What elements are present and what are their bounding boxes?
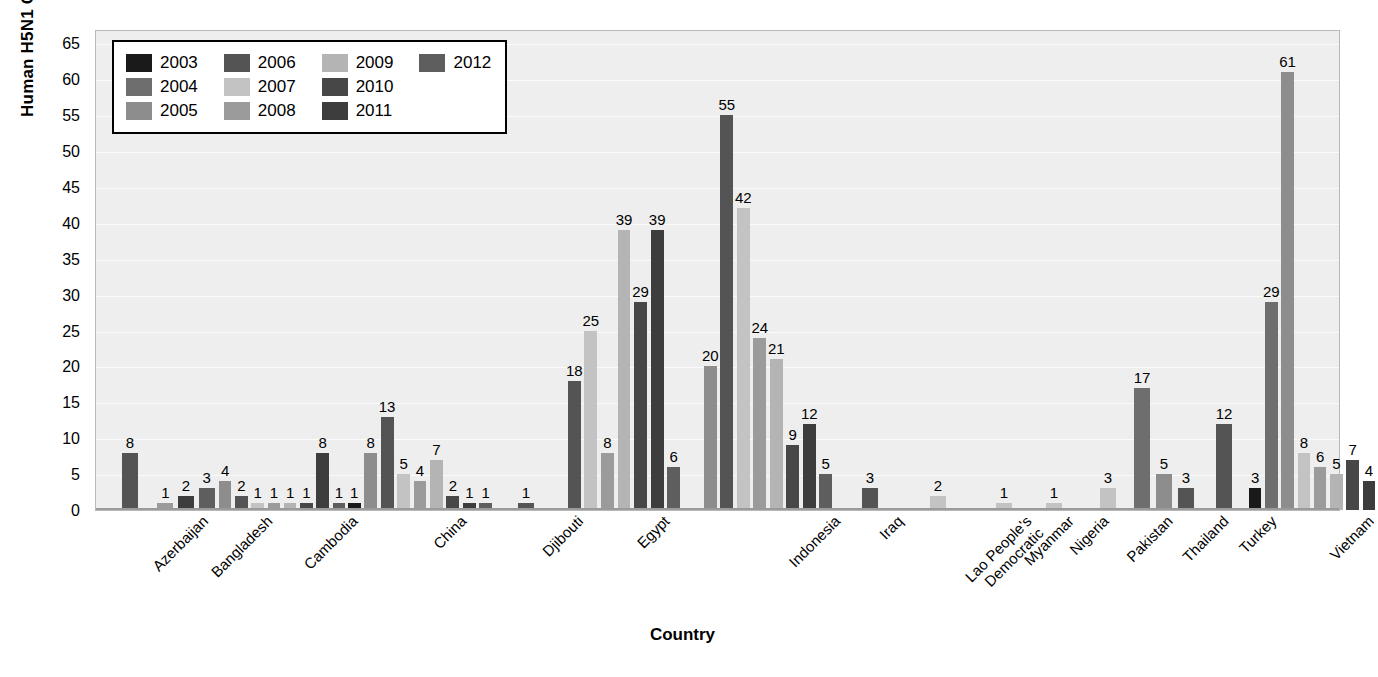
bar-value-label: 1 — [302, 485, 310, 500]
legend-swatch-2004 — [126, 78, 152, 96]
bar-value-label: 29 — [1263, 284, 1280, 299]
bar-value-label: 1 — [1050, 485, 1058, 500]
bar[interactable] — [1216, 424, 1232, 510]
bar-value-label: 25 — [583, 313, 600, 328]
bar[interactable] — [618, 230, 631, 510]
bar-value-label: 1 — [465, 485, 473, 500]
legend[interactable]: 2003200620092012200420072010200520082011 — [112, 40, 507, 134]
bar-value-label: 3 — [1251, 470, 1259, 485]
bar-value-label: 1 — [335, 485, 343, 500]
bar[interactable] — [704, 366, 717, 510]
bar[interactable] — [364, 453, 377, 510]
y-axis-tick: 65 — [34, 36, 80, 52]
bar-value-label: 39 — [649, 212, 666, 227]
bar[interactable] — [1363, 481, 1376, 510]
bar-value-label: 8 — [1300, 435, 1308, 450]
x-axis-tick: Djibouti — [540, 513, 587, 560]
bar[interactable] — [667, 467, 680, 510]
y-axis-tick: 5 — [34, 467, 80, 483]
bar[interactable] — [199, 488, 215, 510]
bar[interactable] — [1346, 460, 1359, 510]
bar[interactable] — [1156, 474, 1172, 510]
bar-value-label: 4 — [221, 463, 229, 478]
legend-item[interactable]: 2007 — [224, 75, 322, 99]
legend-swatch-2003 — [126, 54, 152, 72]
bar[interactable] — [601, 453, 614, 510]
bar[interactable] — [651, 230, 664, 510]
bar[interactable] — [316, 453, 329, 510]
legend-label: 2007 — [250, 77, 296, 96]
bar[interactable] — [819, 474, 832, 510]
bar-group: 1753 — [1131, 31, 1197, 510]
x-axis-tick: Iraq — [877, 513, 907, 543]
bar-value-label: 3 — [1182, 470, 1190, 485]
bar[interactable] — [862, 488, 878, 510]
bar[interactable] — [414, 481, 427, 510]
bar[interactable] — [720, 115, 733, 510]
bar[interactable] — [770, 359, 783, 510]
legend-item[interactable]: 2009 — [322, 51, 420, 75]
legend-item[interactable]: 2003 — [126, 51, 224, 75]
bar[interactable] — [737, 208, 750, 510]
bar[interactable] — [122, 453, 138, 510]
bar-group: 12 — [1205, 31, 1243, 510]
x-axis-tick-line: Thailand — [1179, 512, 1232, 565]
bar[interactable] — [1281, 72, 1294, 510]
bar-value-label: 3 — [202, 470, 210, 485]
legend-label: 2010 — [348, 77, 394, 96]
bar[interactable] — [1314, 467, 1327, 510]
legend-swatch-2010 — [322, 78, 348, 96]
bar[interactable] — [1265, 302, 1278, 510]
bar-value-label: 1 — [350, 485, 358, 500]
bar[interactable] — [397, 474, 410, 510]
legend-item[interactable]: 2008 — [224, 99, 322, 123]
bar-value-label: 7 — [432, 442, 440, 457]
bar-value-label: 18 — [566, 363, 583, 378]
y-axis-tick: 15 — [34, 395, 80, 411]
legend-item[interactable]: 2012 — [419, 51, 491, 75]
bar[interactable] — [1298, 453, 1311, 510]
y-axis-tick: 20 — [34, 359, 80, 375]
legend-item[interactable]: 2006 — [224, 51, 322, 75]
bar[interactable] — [1134, 388, 1150, 510]
legend-item[interactable]: 2011 — [322, 99, 420, 123]
y-axis-tick: 55 — [34, 108, 80, 124]
y-axis-tick: 25 — [34, 324, 80, 340]
bar-value-label: 6 — [670, 449, 678, 464]
bar-value-label: 1 — [161, 485, 169, 500]
legend-row: 200420072010 — [126, 75, 491, 99]
bar-value-label: 29 — [632, 284, 649, 299]
bar[interactable] — [753, 338, 766, 510]
bar-value-label: 12 — [1216, 406, 1233, 421]
bar[interactable] — [1100, 488, 1116, 510]
legend-swatch-2005 — [126, 102, 152, 120]
bar-value-label: 1 — [1000, 485, 1008, 500]
legend-table: 2003200620092012200420072010200520082011 — [126, 51, 491, 123]
bar-group: 3296186574 — [1247, 31, 1377, 510]
x-axis-tick: Egypt — [634, 513, 673, 552]
bar[interactable] — [803, 424, 816, 510]
x-axis-tick-line: Djibouti — [539, 512, 586, 559]
x-axis-tick: Bangladesh — [208, 513, 276, 581]
x-axis-tick: Cambodia — [301, 513, 361, 573]
bar[interactable] — [568, 381, 581, 510]
bar[interactable] — [1330, 474, 1343, 510]
bar-value-label: 24 — [751, 320, 768, 335]
legend-item[interactable]: 2010 — [322, 75, 420, 99]
bar[interactable] — [1178, 488, 1194, 510]
bar[interactable] — [786, 445, 799, 510]
y-axis-tick: 10 — [34, 431, 80, 447]
bar[interactable] — [430, 460, 443, 510]
bar-value-label: 1 — [522, 485, 530, 500]
bar[interactable] — [219, 481, 232, 510]
legend-item[interactable]: 2005 — [126, 99, 224, 123]
bar[interactable] — [634, 302, 647, 510]
x-axis-tick-line: Egypt — [634, 512, 673, 551]
bar-value-label: 12 — [801, 406, 818, 421]
legend-item[interactable]: 2004 — [126, 75, 224, 99]
bar[interactable] — [584, 331, 597, 510]
legend-label: 2005 — [152, 101, 198, 120]
bar[interactable] — [1249, 488, 1262, 510]
bar[interactable] — [381, 417, 394, 510]
